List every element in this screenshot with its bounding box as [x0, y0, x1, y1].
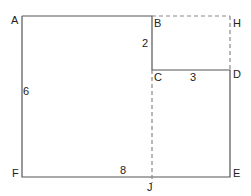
point-label-d: D [233, 69, 241, 80]
length-label-cd: 3 [190, 72, 196, 83]
length-label-fj: 8 [120, 165, 126, 176]
solid-polygon [22, 16, 230, 177]
dashed-lines [152, 16, 230, 183]
point-label-a: A [11, 15, 18, 26]
length-label-bc: 2 [142, 38, 148, 49]
point-label-h: H [233, 18, 241, 29]
point-label-f: F [12, 168, 19, 179]
point-label-j: J [147, 182, 153, 193]
length-label-af: 6 [23, 86, 29, 97]
point-label-c: C [154, 72, 162, 83]
point-label-b: B [154, 18, 161, 29]
solid-outline [22, 16, 230, 177]
point-label-e: E [233, 168, 240, 179]
